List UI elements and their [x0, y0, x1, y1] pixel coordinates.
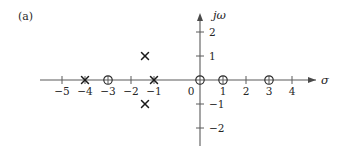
- sigma-axis-label: σ: [321, 73, 330, 87]
- sigma-axis-arrow: [308, 77, 316, 83]
- tick-label-jomega-minus1: −1: [209, 98, 224, 110]
- tick-label-sigma-minus3: −3: [100, 85, 115, 97]
- tick-label-sigma-minus4: −4: [77, 85, 93, 97]
- tick-label-sigma-4: 4: [289, 85, 296, 97]
- pole-zero-figure: (a) −5 −4 −3 −2: [0, 0, 351, 152]
- tick-label-sigma-1: 1: [220, 85, 227, 97]
- tick-label-sigma-zero: 0: [188, 85, 195, 97]
- pole-marker: [142, 53, 149, 60]
- tick-label-jomega-minus2: −2: [209, 122, 224, 134]
- jomega-axis-label: jω: [210, 8, 227, 22]
- pole-marker: [142, 101, 149, 108]
- pole-zero-plot: −5 −4 −3 −2 −1 0 1 2 3 4 1 2 −1 −2 σ jω: [0, 0, 351, 152]
- tick-label-sigma-minus1: −1: [146, 85, 161, 97]
- tick-label-sigma-minus5: −5: [54, 85, 69, 97]
- tick-label-sigma-3: 3: [266, 85, 273, 97]
- tick-label-jomega-2: 2: [209, 26, 216, 38]
- tick-label-sigma-2: 2: [243, 85, 250, 97]
- jomega-axis-arrow: [197, 13, 203, 21]
- tick-label-sigma-minus2: −2: [123, 85, 138, 97]
- tick-label-jomega-1: 1: [209, 50, 216, 62]
